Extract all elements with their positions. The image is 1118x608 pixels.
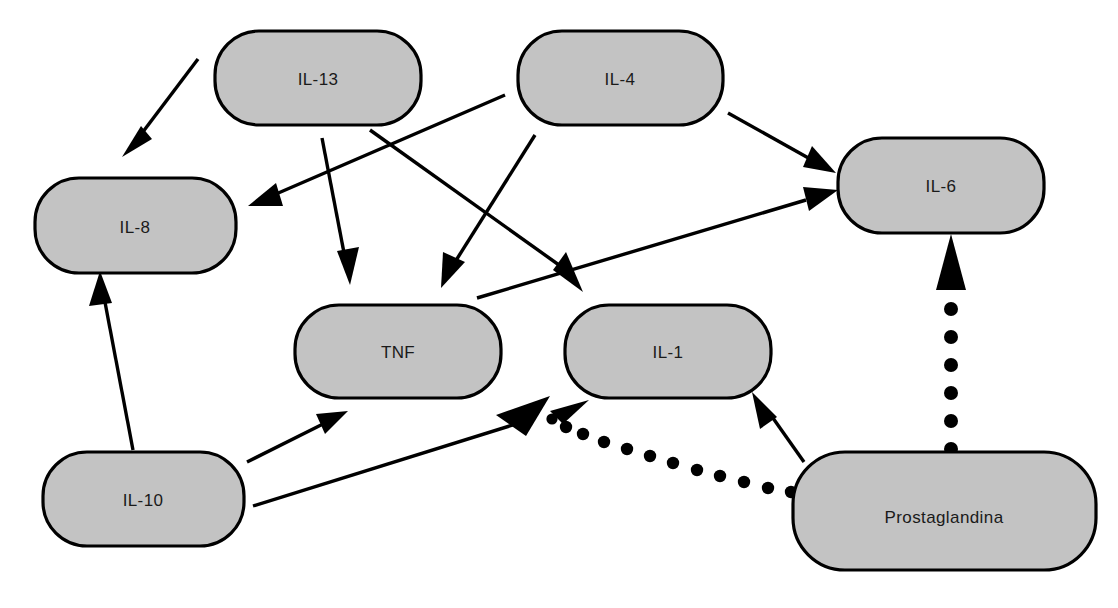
edge-prostaglandina-to-il6-dotted: [936, 234, 966, 456]
node-il1-label: IL-1: [653, 343, 684, 362]
node-tnf[interactable]: TNF: [295, 305, 501, 398]
edge-il10-to-il8: [89, 271, 133, 450]
edge-prostaglandina-to-il1: [752, 392, 804, 462]
edge-il10-to-il6: [477, 187, 838, 298]
nodes-layer: IL-13 IL-4 IL-8 IL-6 TNF IL-1: [35, 31, 1096, 570]
node-il8[interactable]: IL-8: [35, 178, 236, 273]
node-il10[interactable]: IL-10: [43, 452, 244, 546]
node-il6-label: IL-6: [926, 177, 957, 196]
diagram-canvas: IL-13 IL-4 IL-8 IL-6 TNF IL-1: [0, 0, 1118, 608]
node-il1[interactable]: IL-1: [565, 305, 771, 398]
cytokine-network-diagram: IL-13 IL-4 IL-8 IL-6 TNF IL-1: [0, 0, 1118, 608]
node-il13-label: IL-13: [298, 70, 339, 89]
edge-il13-to-il1: [370, 130, 583, 292]
node-prostaglandina[interactable]: Prostaglandina: [793, 452, 1096, 570]
edge-il4-to-il6: [728, 113, 836, 173]
edge-il10-to-tnf-short: [247, 411, 348, 462]
edge-il13-to-il8: [122, 59, 198, 157]
node-tnf-label: TNF: [381, 343, 415, 362]
node-il6[interactable]: IL-6: [838, 138, 1044, 233]
node-il8-label: IL-8: [120, 218, 151, 237]
edges-layer: [89, 59, 966, 506]
edge-il4-to-tnf: [441, 135, 535, 288]
node-il4[interactable]: IL-4: [518, 31, 723, 125]
edge-il10-to-tnf-long: [253, 396, 550, 506]
node-prostaglandina-label: Prostaglandina: [884, 508, 1003, 527]
node-il4-label: IL-4: [605, 70, 636, 89]
node-il13[interactable]: IL-13: [215, 31, 421, 125]
node-il10-label: IL-10: [123, 491, 164, 510]
